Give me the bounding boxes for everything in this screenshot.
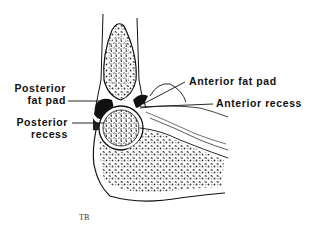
label-anterior-fat-pad: Anterior fat pad	[189, 75, 277, 87]
label-anterior-recess: Anterior recess	[216, 97, 302, 109]
elbow-diagram: Posterior fat pad Posterior recess Anter…	[0, 0, 317, 228]
label-posterior-fat-pad-line1: Posterior	[4, 82, 66, 94]
anterior-structures	[133, 84, 228, 117]
leader-anterior-recess	[140, 104, 213, 107]
label-posterior-fat-pad-line2: fat pad	[4, 94, 66, 106]
label-posterior-recess: Posterior recess	[4, 116, 68, 140]
label-posterior-recess-line1: Posterior	[4, 116, 68, 128]
label-posterior-recess-line2: recess	[4, 128, 68, 140]
humerus	[95, 14, 146, 110]
label-posterior-fat-pad: Posterior fat pad	[4, 82, 66, 106]
leader-anterior-fat-pad	[143, 82, 185, 104]
elbow-illustration	[0, 0, 317, 228]
artist-signature: TB	[79, 213, 89, 222]
